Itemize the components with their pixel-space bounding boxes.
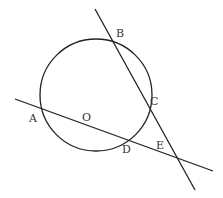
secant-line-AE xyxy=(15,99,213,171)
label-B: B xyxy=(116,27,124,40)
geometry-diagram: B C A O D E xyxy=(0,0,223,198)
label-E: E xyxy=(156,139,164,152)
label-A: A xyxy=(28,112,38,125)
circle-O xyxy=(40,39,152,151)
label-O: O xyxy=(82,111,91,124)
secant-line-BE xyxy=(95,9,195,190)
label-C: C xyxy=(150,95,158,108)
label-D: D xyxy=(122,143,131,156)
